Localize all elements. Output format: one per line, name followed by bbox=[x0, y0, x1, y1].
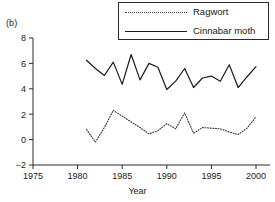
figure-panel-b: (b) −202468197519801985199019952000 Ragw… bbox=[0, 0, 275, 202]
legend-label-cinnabar-moth: Cinnabar moth bbox=[193, 25, 255, 36]
legend-sample-solid-line bbox=[125, 31, 187, 33]
legend-sample-dotted-line bbox=[125, 12, 187, 14]
legend-item-cinnabar-moth: Cinnabar moth bbox=[119, 22, 270, 41]
axes: −202468197519801985199019952000 bbox=[16, 33, 270, 181]
legend-label-ragwort: Ragwort bbox=[193, 6, 228, 17]
panel-label: (b) bbox=[6, 18, 17, 28]
svg-text:1985: 1985 bbox=[112, 171, 132, 181]
chart-legend: Ragwort Cinnabar moth bbox=[118, 2, 269, 40]
svg-text:8: 8 bbox=[21, 33, 26, 43]
data-series bbox=[87, 55, 256, 143]
series-line-ragwort bbox=[87, 110, 256, 142]
legend-item-ragwort: Ragwort bbox=[119, 3, 270, 22]
svg-text:1975: 1975 bbox=[23, 171, 43, 181]
svg-text:2000: 2000 bbox=[246, 171, 266, 181]
svg-text:1990: 1990 bbox=[157, 171, 177, 181]
svg-text:6: 6 bbox=[21, 59, 26, 69]
svg-text:1995: 1995 bbox=[201, 171, 221, 181]
svg-text:1980: 1980 bbox=[68, 171, 88, 181]
x-axis-title: Year bbox=[0, 186, 275, 196]
series-line-cinnabar-moth bbox=[87, 55, 256, 90]
svg-text:0: 0 bbox=[21, 135, 26, 145]
svg-text:2: 2 bbox=[21, 110, 26, 120]
svg-text:−2: −2 bbox=[16, 160, 26, 170]
svg-text:4: 4 bbox=[21, 84, 26, 94]
